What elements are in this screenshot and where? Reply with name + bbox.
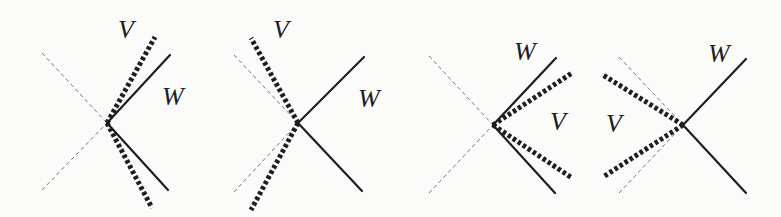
w-label: W — [514, 37, 538, 66]
guide-dashed-line — [619, 125, 683, 193]
w-label: W — [162, 82, 186, 111]
panel-2: VW — [234, 15, 382, 210]
w-label: W — [708, 39, 732, 68]
w-solid-line — [298, 57, 364, 123]
v-label: V — [273, 15, 292, 44]
panel-1: VW — [42, 15, 186, 208]
w-solid-line — [107, 55, 170, 123]
guide-dashed-line — [42, 53, 107, 123]
guide-dashed-line — [429, 56, 493, 125]
ray-diagram-canvas: VWVWVWVW — [0, 0, 781, 217]
w-solid-line — [107, 123, 168, 190]
w-solid-line — [298, 123, 362, 191]
v-label: V — [118, 15, 137, 44]
v-label: V — [550, 107, 569, 136]
v-label: V — [606, 109, 625, 138]
panel-4: VW — [603, 39, 746, 193]
diagram-figure: VWVWVWVW — [0, 0, 781, 217]
w-label: W — [358, 84, 382, 113]
guide-dashed-line — [42, 123, 107, 190]
w-solid-line — [683, 125, 746, 193]
panel-3: VW — [429, 37, 572, 193]
guide-dashed-line — [429, 125, 493, 193]
w-solid-line — [683, 59, 746, 125]
guide-dashed-line — [619, 57, 683, 125]
